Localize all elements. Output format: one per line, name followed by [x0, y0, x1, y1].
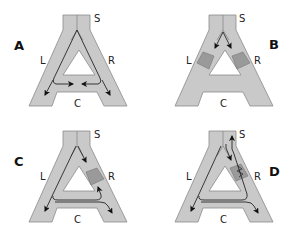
segment-label-c: C — [220, 214, 227, 225]
segment-label-r: R — [254, 171, 261, 182]
panel-d: D S L R C — [175, 129, 280, 225]
segment-label-c: C — [74, 214, 81, 225]
panel-label: C — [14, 154, 24, 169]
segment-label-s: S — [94, 129, 100, 140]
segment-label-s: S — [239, 129, 245, 140]
segment-label-s: S — [239, 13, 245, 24]
segment-label-l: L — [40, 171, 46, 182]
segment-label-l: L — [40, 55, 46, 66]
segment-label-r: R — [254, 55, 261, 66]
segment-label-s: S — [94, 13, 100, 24]
panel-label: A — [14, 38, 24, 53]
segment-label-c: C — [74, 98, 81, 109]
segment-label-l: L — [186, 171, 192, 182]
panel-b: B S L R C — [175, 13, 279, 109]
segment-label-c: C — [220, 98, 227, 109]
segment-label-l: L — [186, 55, 192, 66]
panel-a: A S L R C — [14, 13, 127, 109]
segment-label-r: R — [108, 171, 115, 182]
diagram-canvas: A S L R C B S L R C C S L R C — [0, 0, 293, 233]
panel-label: B — [269, 37, 279, 52]
segment-label-r: R — [108, 55, 115, 66]
panel-label: D — [269, 164, 280, 179]
panel-c: C S L R C — [14, 129, 127, 225]
